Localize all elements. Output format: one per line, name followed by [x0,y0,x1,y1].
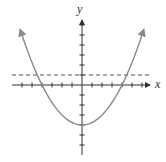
y-axis-label: y [77,2,82,17]
x-axis-label: x [155,77,160,92]
parabola-graph [0,0,166,162]
